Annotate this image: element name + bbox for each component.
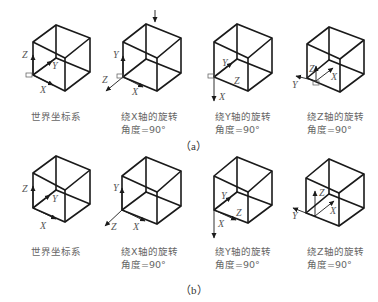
caption-line: 世界坐标系 [31, 245, 81, 258]
axis-label-x: X [131, 86, 139, 97]
caption-line: 绕Y轴的旋转 [215, 245, 271, 258]
axis-label-z: Z [22, 49, 28, 60]
panel-label-b: （b） [180, 281, 208, 297]
caption-b4: 绕Z轴的旋转 角度=90° [307, 245, 364, 271]
axis-label-x: X [39, 84, 47, 95]
axes-a3: Y Z X [208, 57, 240, 102]
caption-line: 角度=90° [121, 123, 178, 136]
caption-b2: 绕X轴的旋转 角度=90° [121, 245, 178, 271]
axis-label-x: X [39, 220, 47, 231]
caption-line: 角度=90° [307, 123, 364, 136]
caption-line: 角度=90° [215, 258, 271, 271]
axis-label-y: Y [292, 79, 299, 90]
caption-a2: 绕X轴的旋转 角度=90° [121, 110, 178, 136]
caption-line: 角度=90° [215, 123, 271, 136]
axes-b4: Z Y X [292, 187, 337, 221]
axis-label-z: Z [309, 63, 315, 74]
caption-a3: 绕Y轴的旋转 角度=90° [215, 110, 271, 136]
caption-line: 绕X轴的旋转 [121, 245, 178, 258]
caption-b3: 绕Y轴的旋转 角度=90° [215, 245, 271, 271]
axis-label-x: X [132, 221, 140, 232]
caption-b1: 世界坐标系 [31, 245, 81, 258]
axis-label-x: X [217, 218, 225, 229]
axis-label-z: Z [111, 221, 117, 232]
caption-line: 世界坐标系 [31, 110, 81, 123]
cube-a4-rotate-z [307, 27, 364, 92]
axis-label-z: Z [102, 74, 108, 85]
axis-label-z: Z [234, 75, 240, 86]
axis-label-y: Y [113, 182, 120, 193]
axis-label-y: Y [52, 60, 59, 71]
caption-a4: 绕Z轴的旋转 角度=90° [307, 110, 364, 136]
caption-a1: 世界坐标系 [31, 110, 81, 123]
panel-label-a: （a） [180, 137, 207, 153]
caption-line: 角度=90° [121, 258, 178, 271]
axes-a4: Z Y X [292, 63, 338, 90]
axis-label-y: Y [52, 193, 59, 204]
cube-a1-world [33, 25, 90, 91]
caption-line: 角度=90° [307, 258, 364, 271]
axes-a1: Z Y X [22, 49, 59, 95]
axis-label-x: X [218, 91, 226, 102]
caption-line: 绕Y轴的旋转 [215, 110, 271, 123]
axis-label-x: X [329, 205, 337, 216]
axes-b1: Z Y X [22, 183, 59, 231]
axis-label-z: Z [22, 183, 28, 194]
caption-line: 绕X轴的旋转 [121, 110, 178, 123]
axis-label-z: Z [319, 187, 325, 198]
axes-b3: Y Z X [214, 190, 242, 238]
axis-label-y: Y [113, 49, 120, 60]
axis-label-y: Y [292, 210, 299, 221]
caption-line: 绕Z轴的旋转 [307, 110, 364, 123]
axis-label-x: X [330, 71, 338, 82]
axis-label-z: Z [236, 207, 242, 218]
caption-line: 绕Z轴的旋转 [307, 245, 364, 258]
